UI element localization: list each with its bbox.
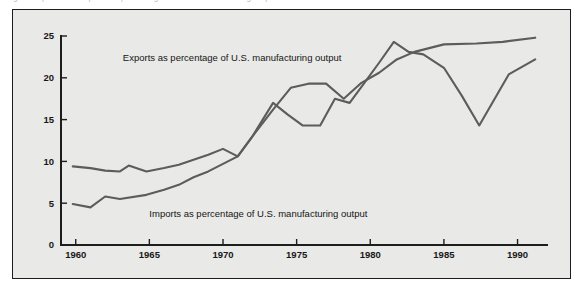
annotation-layer: Exports as percentage of U.S. manufactur… — [123, 52, 368, 218]
y-axis-tick-label: 5 — [49, 198, 55, 209]
figure-frame: 05101520251960196519701975198019851990 E… — [12, 9, 571, 279]
imports-label: Imports as percentage of U.S. manufactur… — [149, 208, 367, 219]
y-axis-tick-label: 0 — [49, 239, 54, 250]
x-axis-tick-label: 1975 — [286, 249, 308, 260]
imports-series-line — [73, 38, 535, 208]
axis-tick-labels-layer: 05101520251960196519701975198019851990 — [43, 30, 528, 260]
x-axis-tick-label: 1980 — [360, 249, 381, 260]
y-axis-tick-label: 20 — [43, 72, 54, 83]
exports-label: Exports as percentage of U.S. manufactur… — [123, 52, 342, 63]
series-layer — [73, 38, 535, 208]
x-axis-tick-label: 1985 — [433, 249, 455, 260]
x-axis-tick-label: 1970 — [212, 249, 233, 260]
x-axis-tick-label: 1990 — [507, 249, 528, 260]
clipped-top-caption: Figure Exports and imports as percentage… — [0, 0, 583, 7]
clipped-caption-text: Figure Exports and imports as percentage… — [6, 0, 277, 2]
y-axis-tick-label: 25 — [43, 30, 54, 41]
x-axis-tick-label: 1960 — [65, 249, 86, 260]
chart-screenshot: Figure Exports and imports as percentage… — [0, 0, 583, 289]
x-axis-tick-label: 1965 — [139, 249, 161, 260]
y-axis-tick-label: 15 — [43, 114, 54, 125]
y-axis-tick-label: 10 — [43, 156, 54, 167]
line-chart: 05101520251960196519701975198019851990 E… — [13, 10, 572, 280]
